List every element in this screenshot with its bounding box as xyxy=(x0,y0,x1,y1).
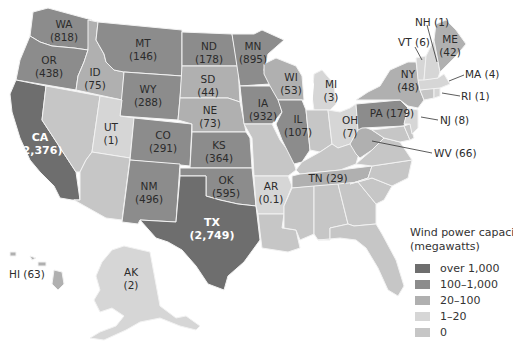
legend-swatch xyxy=(415,280,430,289)
label-nh: NH (1) xyxy=(415,16,449,28)
state-nm xyxy=(122,160,180,224)
label-pa: PA (179) xyxy=(370,107,414,119)
label-nj: NJ (8) xyxy=(440,114,469,126)
label-mi: MI(3) xyxy=(324,78,339,103)
state-ak xyxy=(90,246,200,340)
leader-nj xyxy=(421,117,438,120)
state-ri xyxy=(434,88,440,98)
state-fl xyxy=(318,224,404,296)
lake-michigan xyxy=(304,76,314,108)
label-hi: HI (63) xyxy=(9,268,45,280)
label-ak: AK(2) xyxy=(124,266,140,291)
legend-item: 100–1,000 xyxy=(415,276,513,292)
legend-item: over 1,000 xyxy=(415,260,513,276)
legend-swatch xyxy=(415,328,430,337)
leader-ma xyxy=(449,75,464,81)
legend-title: Wind power capacity xyxy=(410,226,513,240)
label-vt: VT (6) xyxy=(398,36,430,48)
label-oh: OH(7) xyxy=(342,114,358,139)
label-ri: RI (1) xyxy=(461,90,490,102)
legend-swatch xyxy=(415,312,430,321)
map-legend: Wind power capacity (megawatts) over 1,0… xyxy=(410,226,513,340)
legend-item: 1–20 xyxy=(415,308,513,324)
legend-swatch xyxy=(415,296,430,305)
label-tn: TN (29) xyxy=(307,172,347,184)
leader-ri xyxy=(442,93,460,96)
legend-item: 0 xyxy=(415,324,513,340)
label-me: ME(42) xyxy=(439,33,461,58)
legend-item: 20–100 xyxy=(415,292,513,308)
label-ut: UT(1) xyxy=(104,121,119,146)
label-ma: MA (4) xyxy=(465,68,499,80)
legend-swatch xyxy=(415,264,430,273)
legend-subtitle: (megawatts) xyxy=(410,240,513,254)
state-mi xyxy=(312,70,336,110)
label-wv: WV (66) xyxy=(434,147,476,159)
